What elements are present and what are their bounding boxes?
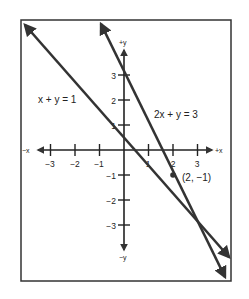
svg-text:−2: −2	[106, 196, 116, 206]
svg-text:3: 3	[111, 71, 116, 81]
y-pos-label: +y	[119, 39, 127, 47]
svg-text:−2: −2	[70, 159, 80, 169]
svg-text:−1: −1	[106, 171, 116, 181]
x-pos-label: +x	[215, 147, 223, 154]
x-tick-labels: −3 −2 −1 1 2 3	[45, 159, 199, 169]
svg-text:2: 2	[111, 96, 116, 106]
svg-text:3: 3	[195, 159, 200, 169]
svg-text:−3: −3	[45, 159, 55, 169]
equation-label-1: x + y = 1	[38, 94, 77, 105]
intersection-point	[170, 172, 176, 178]
svg-text:−1: −1	[94, 159, 104, 169]
y-tick-labels: 3 2 1 −1 −2 −3	[106, 71, 116, 231]
graph-figure: −x +x +y −y −3 −2 −1 1 2 3 3 2 1 −1 −2 −…	[0, 0, 249, 299]
intersection-label: (2, −1)	[182, 172, 211, 183]
equation-label-2: 2x + y = 3	[154, 109, 198, 120]
svg-text:−3: −3	[106, 221, 116, 231]
x-neg-label: −x	[22, 147, 30, 154]
y-neg-label: −y	[119, 254, 127, 262]
